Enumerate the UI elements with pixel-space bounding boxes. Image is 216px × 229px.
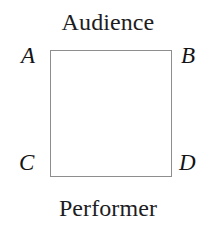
vertex-label-a: A — [21, 44, 35, 67]
performer-label: Performer — [0, 196, 216, 220]
stage-diagram: Audience A B C D Performer — [0, 0, 216, 229]
vertex-label-d: D — [179, 151, 196, 174]
vertex-label-b: B — [181, 44, 195, 67]
vertex-label-c: C — [19, 151, 34, 174]
audience-label: Audience — [0, 10, 216, 34]
stage-square-outline — [50, 50, 172, 177]
